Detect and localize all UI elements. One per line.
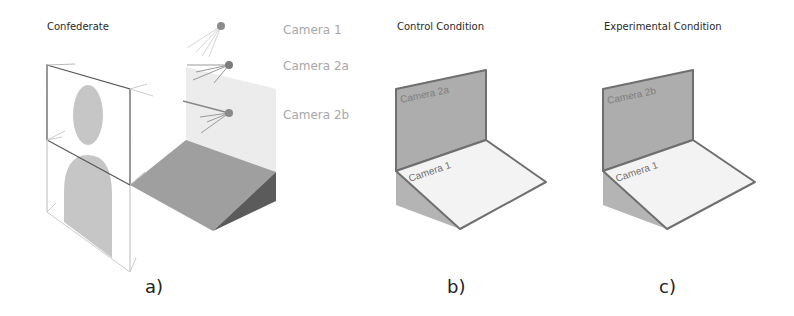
panel-b-scene: Camera 2a Camera 1 xyxy=(396,70,546,229)
camera-1-icon xyxy=(187,22,225,57)
panel-a-scene xyxy=(47,22,276,272)
experimental-setup-figure: Confederate Control Condition Experiment… xyxy=(0,0,794,316)
panel-c-scene: Camera 2b Camera 1 xyxy=(603,70,755,229)
diagram-canvas: Camera 2a Camera 1 Camera 2b Camera 1 xyxy=(0,0,794,316)
confederate-body xyxy=(64,155,112,258)
confederate-head xyxy=(73,85,103,145)
